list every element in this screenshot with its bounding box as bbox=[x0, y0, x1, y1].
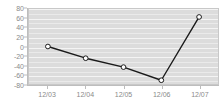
y-axis-tick-mark bbox=[24, 85, 27, 86]
y-axis-tick-label: -20 bbox=[14, 53, 24, 60]
y-axis: 806040200-20-40-60-80 bbox=[0, 0, 27, 104]
x-axis-tick-label: 12/04 bbox=[77, 91, 95, 99]
x-axis-tick-mark bbox=[162, 86, 163, 89]
y-axis-tick-label: -60 bbox=[14, 72, 24, 79]
series-layer bbox=[29, 9, 218, 84]
y-axis-tick-mark bbox=[24, 75, 27, 76]
y-axis-tick-mark bbox=[24, 46, 27, 47]
y-axis-line bbox=[27, 8, 28, 86]
y-axis-tick-label: 20 bbox=[16, 33, 24, 40]
x-axis-line bbox=[27, 85, 219, 86]
y-axis-tick-mark bbox=[24, 17, 27, 18]
x-axis-tick-label: 12/07 bbox=[191, 91, 209, 99]
y-axis-tick-mark bbox=[24, 36, 27, 37]
y-axis-tick-mark bbox=[24, 65, 27, 66]
series-markers bbox=[46, 15, 202, 83]
y-axis-tick-label: 80 bbox=[16, 5, 24, 12]
x-axis-tick-mark bbox=[200, 86, 201, 89]
line-chart: 806040200-20-40-60-80 12/0312/0412/0512/… bbox=[0, 0, 223, 104]
x-axis-tick-mark bbox=[85, 86, 86, 89]
x-axis-tick-mark bbox=[47, 86, 48, 89]
data-point-marker bbox=[46, 44, 51, 49]
y-axis-tick-mark bbox=[24, 56, 27, 57]
y-axis-tick-label: -40 bbox=[14, 62, 24, 69]
y-axis-tick-mark bbox=[24, 27, 27, 28]
data-point-marker bbox=[83, 56, 88, 61]
y-axis-tick-label: 60 bbox=[16, 14, 24, 21]
x-axis-tick-label: 12/03 bbox=[38, 91, 56, 99]
y-axis-tick-label: -80 bbox=[14, 82, 24, 89]
data-point-marker bbox=[197, 15, 202, 20]
data-point-marker bbox=[159, 78, 164, 83]
x-axis-tick-label: 12/06 bbox=[153, 91, 171, 99]
x-axis-tick-mark bbox=[124, 86, 125, 89]
x-axis-tick-label: 12/05 bbox=[115, 91, 133, 99]
plot-area bbox=[28, 8, 219, 85]
y-axis-tick-mark bbox=[24, 8, 27, 9]
y-axis-tick-label: 40 bbox=[16, 24, 24, 31]
data-point-marker bbox=[121, 65, 126, 70]
series-line bbox=[48, 17, 199, 80]
